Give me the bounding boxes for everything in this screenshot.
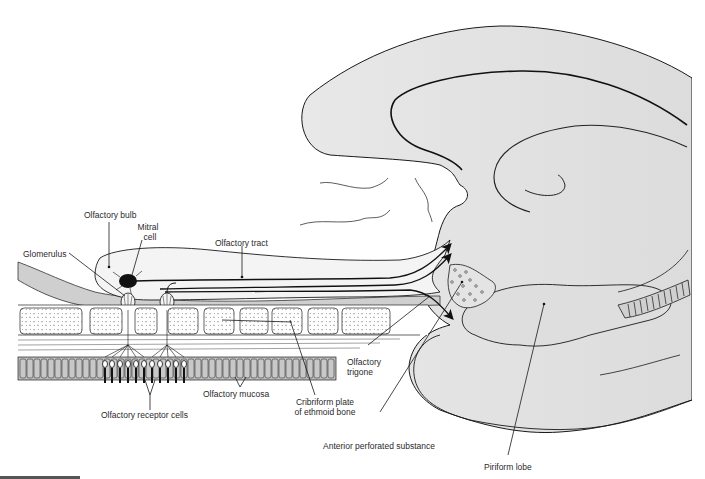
mucosa-cell [216, 359, 222, 378]
mucosa-cell [48, 359, 54, 378]
receptor-cell [103, 361, 108, 368]
mucosa-cell [41, 359, 47, 378]
receptor-cell [142, 361, 147, 368]
mucosa-cell [286, 359, 292, 378]
lamina-lines [18, 339, 400, 350]
label-olfactory-bulb: Olfactory bulb [84, 210, 136, 220]
mucosa-cell [195, 359, 201, 378]
label-olfactory-receptor-cells: Olfactory receptor cells [101, 410, 188, 420]
mucosa-cell [328, 359, 334, 378]
label-olfactory-trigone-line1: Olfactory [347, 357, 381, 367]
mucosa-cell [237, 359, 243, 378]
mucosa-cell [20, 359, 26, 378]
mucosa-cell [279, 359, 285, 378]
receptor-cell [158, 361, 163, 368]
mucosa-cell [34, 359, 40, 378]
mucosa-cell [97, 359, 103, 378]
mucosa-cell [230, 359, 236, 378]
receptor-cell [134, 361, 139, 368]
mucosa-cell [272, 359, 278, 378]
mucosa-cell [265, 359, 271, 378]
mucosa-cell [209, 359, 215, 378]
receptor-cell [174, 361, 179, 368]
mucosa-cell [314, 359, 320, 378]
mucosa-cell [307, 359, 313, 378]
label-olfactory-trigone-line2: trigone [347, 367, 373, 377]
mucosa-cell [202, 359, 208, 378]
mucosa-cell [258, 359, 264, 378]
label-cribriform-line1: Cribriform plate [290, 397, 360, 407]
mucosa-cell [27, 359, 33, 378]
mucosa-cell [244, 359, 250, 378]
mucosa-cell [55, 359, 61, 378]
frontal-contour-1 [320, 178, 388, 188]
receptor-cell [150, 361, 155, 368]
label-anterior-perforated-substance: Anterior perforated substance [323, 441, 435, 451]
mucosa-cell [223, 359, 229, 378]
label-mitral-cell-line2: cell [139, 232, 161, 242]
mucosa-cell [251, 359, 257, 378]
label-glomerulus: Glomerulus [23, 249, 66, 259]
receptor-cell [166, 361, 171, 368]
mucosa-cell [62, 359, 68, 378]
frontal-contour-3 [415, 178, 432, 222]
frontal-contour-2 [300, 210, 390, 225]
mucosa-cell [300, 359, 306, 378]
label-olfactory-tract: Olfactory tract [215, 238, 268, 248]
mucosa-cell [90, 359, 96, 378]
receptor-cell [110, 361, 115, 368]
label-olfactory-mucosa: Olfactory mucosa [203, 389, 269, 399]
mucosa-cell [83, 359, 89, 378]
mucosa-cell [69, 359, 75, 378]
receptor-cell [182, 361, 187, 368]
label-mitral-cell-line1: Mitral [135, 222, 161, 232]
mucosa-cell [188, 359, 194, 378]
mucosa-cell [321, 359, 327, 378]
mucosa-cell [76, 359, 82, 378]
mucosa-cell [293, 359, 299, 378]
label-piriform-lobe: Piriform lobe [484, 462, 532, 472]
label-cribriform-line2: of ethmoid bone [290, 407, 360, 417]
leader-receptor-cells [145, 380, 155, 410]
receptor-cell [126, 361, 131, 368]
bone-cells [20, 308, 390, 334]
receptor-cell [118, 361, 123, 368]
